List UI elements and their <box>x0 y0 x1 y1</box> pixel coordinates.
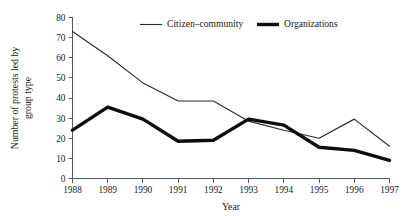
legend-label-organizations: Organizations <box>284 18 338 29</box>
x-tick-label: 1991 <box>169 185 188 195</box>
x-axis-ticks: 1988198919901991199219931994199519961997 <box>63 179 399 195</box>
x-tick-label: 1990 <box>134 185 153 195</box>
chart-axes <box>73 18 390 179</box>
x-tick-label: 1996 <box>345 185 364 195</box>
legend-label-citizen-community: Citizen–community <box>167 18 243 29</box>
y-tick-label: 60 <box>56 53 66 63</box>
line-chart: 01020304050607080 1988198919901991199219… <box>0 0 402 216</box>
x-tick-label: 1989 <box>98 185 117 195</box>
x-tick-label: 1994 <box>275 185 294 195</box>
x-tick-label: 1997 <box>380 185 399 195</box>
y-tick-label: 80 <box>56 13 66 23</box>
chart-legend: Citizen–community Organizations <box>140 18 338 29</box>
y-axis-title-line2: group type <box>22 76 33 119</box>
x-tick-label: 1993 <box>239 185 258 195</box>
x-axis-title: Year <box>222 201 241 212</box>
y-tick-label: 50 <box>56 73 66 83</box>
chart-series-group <box>73 32 390 161</box>
y-tick-label: 70 <box>56 33 66 43</box>
legend-item-citizen-community: Citizen–community <box>140 18 243 29</box>
y-axis-ticks: 01020304050607080 <box>56 13 72 184</box>
y-tick-label: 10 <box>56 154 66 164</box>
y-axis-title: Number of protests led by group type <box>9 47 33 149</box>
y-tick-label: 20 <box>56 134 66 144</box>
y-tick-label: 0 <box>61 174 66 184</box>
x-tick-label: 1995 <box>310 185 329 195</box>
y-tick-label: 40 <box>56 93 66 103</box>
x-tick-label: 1988 <box>63 185 82 195</box>
x-tick-label: 1992 <box>204 185 223 195</box>
y-tick-label: 30 <box>56 114 66 124</box>
chart-figure: 01020304050607080 1988198919901991199219… <box>0 0 402 216</box>
series-line-organizations <box>73 107 390 160</box>
legend-item-organizations: Organizations <box>257 18 338 29</box>
y-axis-title-line1: Number of protests led by <box>9 47 20 149</box>
